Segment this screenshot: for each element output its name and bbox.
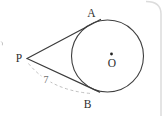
measure-label-seven: 7 <box>44 74 49 85</box>
label-point-b: B <box>84 98 92 110</box>
label-point-p: P <box>16 52 22 64</box>
label-center-o: O <box>108 57 116 69</box>
tangent-line-pb <box>27 59 100 93</box>
label-point-a: A <box>87 7 96 19</box>
geometry-figure-svg: 7 P A B O <box>0 0 164 116</box>
tangent-line-pa <box>27 20 101 59</box>
dashed-arc-pb <box>29 64 92 94</box>
card-border <box>146 2 161 117</box>
crop-artifact <box>1 42 2 46</box>
diagram-canvas: 7 P A B O <box>0 0 164 116</box>
center-dot <box>110 53 113 56</box>
